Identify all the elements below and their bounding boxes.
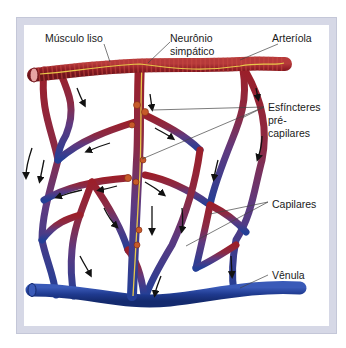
label-neuronio-line2: simpático — [170, 45, 214, 57]
label-arteriola: Arteríola — [272, 32, 312, 44]
label-esfincteres-line2: pré- — [268, 114, 287, 126]
label-musculo-liso: Músculo liso — [45, 32, 103, 44]
label-esfincteres-line3: capilares — [268, 127, 310, 139]
label-esfincteres-line1: Esfíncteres — [268, 101, 321, 113]
venule — [28, 284, 300, 302]
label-venula: Vênula — [272, 269, 305, 281]
label-neuronio-line1: Neurônio — [170, 32, 213, 44]
label-capilares: Capilares — [272, 198, 316, 210]
